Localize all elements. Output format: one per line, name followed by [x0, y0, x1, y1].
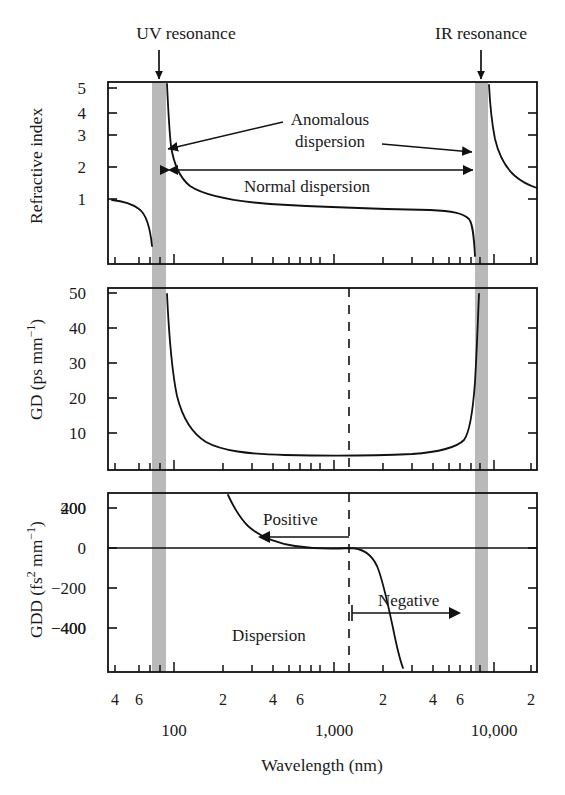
refractive-index-curve-ir-right	[489, 85, 537, 188]
gd-curve	[167, 294, 479, 456]
gdd-ytick-label-400: 400	[61, 500, 87, 517]
negative-dispersion-arrowhead	[449, 607, 461, 619]
dispersion-figure: UV resonance IR resonance Refractive ind…	[0, 0, 565, 795]
anomalous-dispersion-arrow-left	[168, 122, 283, 149]
positive-dispersion-arrowhead	[258, 531, 270, 543]
ir-resonance-band	[475, 82, 488, 672]
gdd-ytick-label-neg400: −400	[51, 620, 86, 637]
gd-panel	[108, 288, 537, 470]
normal-dispersion-arrowhead-left	[168, 165, 178, 175]
anomalous-dispersion-arrow-right	[382, 144, 472, 152]
refractive-index-panel	[108, 82, 537, 264]
gdd-panel	[108, 493, 537, 672]
refractive-index-curve-uv-left	[112, 200, 152, 246]
uv-resonance-band	[152, 82, 166, 672]
plot-vector-layer	[0, 0, 565, 795]
gdd-curve	[228, 495, 403, 668]
